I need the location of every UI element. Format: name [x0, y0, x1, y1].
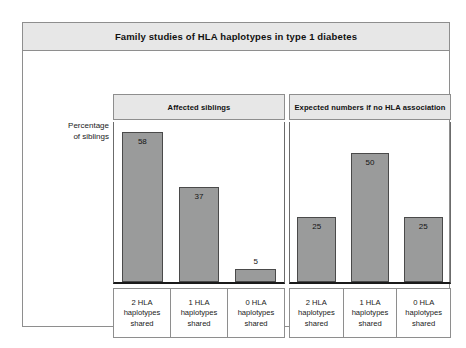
page-title: Family studies of HLA haplotypes in type… [115, 31, 357, 42]
bar-value-label: 50 [352, 158, 388, 167]
category-row-affected-siblings: 2 HLA haplotypes shared 1 HLA haplotypes… [113, 288, 285, 338]
bar-value-label: 58 [123, 137, 162, 146]
bar: 50 [351, 153, 389, 282]
bar-value-label: 25 [405, 222, 441, 231]
category-line: haplotypes [124, 308, 161, 319]
bar-cell: 5 [227, 122, 284, 282]
y-axis-caption: Percentage of siblings [49, 121, 109, 142]
category-line: haplotypes [238, 308, 275, 319]
panel-header-label: Expected numbers if no HLA association [294, 103, 445, 112]
panel-expected-numbers: Expected numbers if no HLA association 2… [289, 94, 451, 338]
category-line: haplotypes [405, 308, 442, 319]
category-line: 0 HLA [245, 298, 266, 309]
plot-box-affected-siblings: 58 37 5 [113, 122, 285, 284]
category-cell: 1 HLA haplotypes shared [344, 289, 398, 337]
category-cell: 2 HLA haplotypes shared [114, 289, 171, 337]
category-line: haplotypes [352, 308, 389, 319]
figure-frame: Family studies of HLA haplotypes in type… [22, 22, 450, 327]
category-line: shared [305, 319, 328, 330]
bar-cell: 50 [343, 122, 396, 282]
panel-affected-siblings: Affected siblings 58 37 [113, 94, 285, 338]
bar-value-label: 25 [298, 222, 334, 231]
panel-header-affected-siblings: Affected siblings [113, 94, 285, 120]
y-axis-caption-line-2: of siblings [49, 132, 109, 143]
bar-cell: 25 [397, 122, 450, 282]
bar-cell: 58 [114, 122, 171, 282]
figure-root: Family studies of HLA haplotypes in type… [0, 0, 466, 348]
category-line: shared [187, 319, 210, 330]
category-cell: 1 HLA haplotypes shared [171, 289, 228, 337]
category-line: shared [358, 319, 381, 330]
category-line: haplotypes [181, 308, 218, 319]
category-line: shared [244, 319, 267, 330]
panel-header-expected-numbers: Expected numbers if no HLA association [289, 94, 451, 120]
bars-row-expected-numbers: 25 50 25 [290, 122, 450, 282]
category-line: 1 HLA [359, 298, 380, 309]
category-line: 1 HLA [188, 298, 209, 309]
panel-header-label: Affected siblings [168, 103, 231, 112]
bar-value-label: 37 [180, 192, 219, 201]
bars-row-affected-siblings: 58 37 5 [114, 122, 284, 282]
bar-value-label: 5 [236, 257, 275, 266]
plot-box-expected-numbers: 25 50 25 [289, 122, 451, 284]
chart-area: Affected siblings 58 37 [113, 94, 451, 338]
bar: 37 [179, 187, 220, 282]
category-line: shared [412, 319, 435, 330]
bar: 25 [297, 217, 335, 282]
category-cell: 0 HLA haplotypes shared [228, 289, 284, 337]
category-line: haplotypes [298, 308, 335, 319]
category-line: 0 HLA [413, 298, 434, 309]
bar: 58 [122, 132, 163, 282]
bar-cell: 25 [290, 122, 343, 282]
category-cell: 0 HLA haplotypes shared [397, 289, 450, 337]
category-row-expected-numbers: 2 HLA haplotypes shared 1 HLA haplotypes… [289, 288, 451, 338]
bar: 5 [235, 269, 276, 282]
category-line: shared [130, 319, 153, 330]
bar-cell: 37 [171, 122, 228, 282]
bar: 25 [404, 217, 442, 282]
figure-title-band: Family studies of HLA haplotypes in type… [23, 23, 449, 51]
category-line: 2 HLA [131, 298, 152, 309]
y-axis-caption-line-1: Percentage [49, 121, 109, 132]
category-line: 2 HLA [306, 298, 327, 309]
category-cell: 2 HLA haplotypes shared [290, 289, 344, 337]
